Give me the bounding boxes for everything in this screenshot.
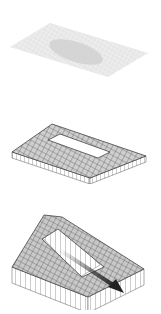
grid-plate-illustration (0, 15, 161, 85)
stage-2-voxel-ring (0, 112, 161, 184)
stage-3-extruded-ring (0, 205, 161, 310)
stage-1-grid-plate (0, 15, 161, 85)
voxel-ring-illustration (0, 112, 161, 184)
extruded-ring-illustration (0, 205, 161, 310)
